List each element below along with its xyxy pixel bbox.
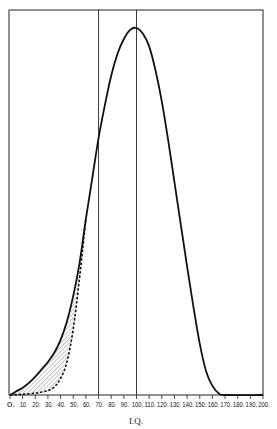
x-tick-label-40: 40. [58,400,66,409]
x-tick-label-60: 60. [83,400,91,409]
x-tick-label-180: 180. [233,400,245,409]
x-tick-label-90: 90. [121,400,129,409]
x-tick-label-160: 160. [208,400,220,409]
x-tick-label-110: 110. [144,400,156,409]
x-tick-label-0: 0. [7,400,15,409]
x-tick-label-150: 150. [195,400,207,409]
x-tick-label-10: 10. [20,400,28,409]
x-tick-label-190: 190. [246,400,258,409]
x-tick-label-140: 140. [182,400,194,409]
x-tick-label-50: 50. [70,400,78,409]
x-axis-label: I.Q. [129,416,143,426]
x-tick-label-20: 20. [32,400,40,409]
x-tick-label-130: 130. [170,400,182,409]
x-tick-label-170: 170. [220,400,232,409]
x-tick-label-200: 200. [258,400,270,409]
x-tick-label-120: 120. [157,400,169,409]
x-tick-label-100: 100. [132,400,144,409]
x-tick-label-80: 80. [108,400,116,409]
hatched-region [10,219,86,395]
iq-distribution-chart: 0.10.20.30.40.50.60.70.80.90.100.110.120… [0,0,277,429]
x-tick-label-30: 30. [45,400,53,409]
x-tick-label-70: 70. [96,400,104,409]
plot-frame [9,10,263,395]
